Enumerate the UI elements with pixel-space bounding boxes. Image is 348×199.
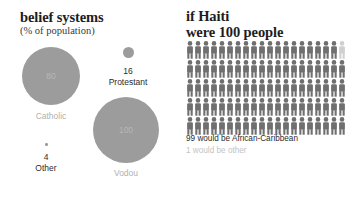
person-icon-african-caribbean [186,60,194,78]
person-icon-african-caribbean [274,117,282,135]
person-icon-african-caribbean [322,117,330,135]
person-icon-african-caribbean [314,60,322,78]
person-icon-african-caribbean [250,117,258,135]
person-icon-african-caribbean [210,98,218,116]
person-icon-african-caribbean [218,98,226,116]
bubble-vodou-value: 100 [93,125,159,135]
person-icon-african-caribbean [218,117,226,135]
person-icon-african-caribbean [306,79,314,97]
person-icon-african-caribbean [314,41,322,59]
bubble-vodou-label: Vodou [93,168,159,178]
person-icon-african-caribbean [282,117,290,135]
person-icon-african-caribbean [266,60,274,78]
person-icon-african-caribbean [202,79,210,97]
bubble-other-value: 4 [16,152,76,162]
person-icon-african-caribbean [298,60,306,78]
bubble-protestant [123,47,134,58]
person-icon-african-caribbean [250,60,258,78]
person-icon-african-caribbean [210,117,218,135]
person-icon-african-caribbean [250,41,258,59]
person-icon-african-caribbean [282,98,290,116]
person-icon-african-caribbean [250,79,258,97]
person-icon-african-caribbean [306,117,314,135]
person-icon-african-caribbean [322,60,330,78]
person-icon-african-caribbean [322,41,330,59]
person-icon-african-caribbean [218,79,226,97]
person-icon-african-caribbean [266,117,274,135]
person-icon-african-caribbean [274,41,282,59]
person-icon-african-caribbean [290,60,298,78]
person-icon-african-caribbean [330,60,338,78]
person-icon-african-caribbean [266,98,274,116]
person-icon-african-caribbean [306,41,314,59]
person-icon-african-caribbean [306,60,314,78]
person-icon-african-caribbean [330,79,338,97]
pictogram-caption-sub: 1 would be other [186,146,247,155]
person-icon-african-caribbean [202,60,210,78]
person-icon-african-caribbean [298,41,306,59]
bubble-catholic-value: 80 [22,71,80,81]
person-icon-african-caribbean [194,117,202,135]
person-icon-african-caribbean [274,98,282,116]
person-icon-african-caribbean [322,98,330,116]
person-icon-african-caribbean [186,41,194,59]
belief-systems-subtitle: (% of population) [20,25,95,37]
person-icon-african-caribbean [330,117,338,135]
person-icon-african-caribbean [242,79,250,97]
bubble-catholic-label: Catholic [0,111,102,121]
person-icon-african-caribbean [338,60,346,78]
bubble-protestant-value: 16 [98,66,158,76]
person-icon-african-caribbean [250,98,258,116]
person-icon-african-caribbean [274,60,282,78]
person-icon-african-caribbean [210,60,218,78]
person-icon-african-caribbean [314,79,322,97]
person-icon-african-caribbean [226,117,234,135]
person-icon-african-caribbean [338,79,346,97]
person-icon-african-caribbean [242,41,250,59]
person-icon-african-caribbean [290,79,298,97]
person-icon-african-caribbean [258,79,266,97]
person-icon-african-caribbean [282,79,290,97]
person-icon-african-caribbean [234,98,242,116]
person-icon-african-caribbean [266,41,274,59]
person-icon-african-caribbean [194,79,202,97]
person-icon-african-caribbean [242,60,250,78]
bubble-catholic: 80 [22,47,80,105]
person-icon-african-caribbean [298,98,306,116]
person-icon-african-caribbean [202,41,210,59]
bubble-other-label: Other [16,163,76,173]
person-icon-african-caribbean [258,117,266,135]
person-icon-african-caribbean [186,98,194,116]
person-icon-african-caribbean [258,60,266,78]
person-icon-african-caribbean [234,117,242,135]
person-icon-african-caribbean [194,98,202,116]
person-icon-african-caribbean [242,98,250,116]
person-icon-african-caribbean [306,98,314,116]
person-icon-african-caribbean [282,41,290,59]
person-icon-african-caribbean [258,98,266,116]
person-icon-african-caribbean [226,98,234,116]
person-icon-african-caribbean [194,41,202,59]
person-icon-african-caribbean [202,117,210,135]
person-icon-african-caribbean [210,41,218,59]
bubble-other [45,143,48,146]
person-icon-african-caribbean [314,98,322,116]
person-icon-african-caribbean [202,98,210,116]
person-icon-african-caribbean [186,79,194,97]
pictogram-grid [186,41,346,136]
person-icon-african-caribbean [194,60,202,78]
person-icon-african-caribbean [242,117,250,135]
person-icon-african-caribbean [322,79,330,97]
person-icon-african-caribbean [290,98,298,116]
person-icon-african-caribbean [298,79,306,97]
person-icon-african-caribbean [234,79,242,97]
person-icon-african-caribbean [314,117,322,135]
person-icon-african-caribbean [274,79,282,97]
haiti-pictogram-title: if Haiti were 100 people [186,9,283,40]
bubble-protestant-label: Protestant [98,77,158,87]
person-icon-african-caribbean [218,41,226,59]
pictogram-caption-main: 99 would be African-Caribbean [186,134,298,143]
person-icon-african-caribbean [290,41,298,59]
person-icon-african-caribbean [226,60,234,78]
person-icon-african-caribbean [210,79,218,97]
